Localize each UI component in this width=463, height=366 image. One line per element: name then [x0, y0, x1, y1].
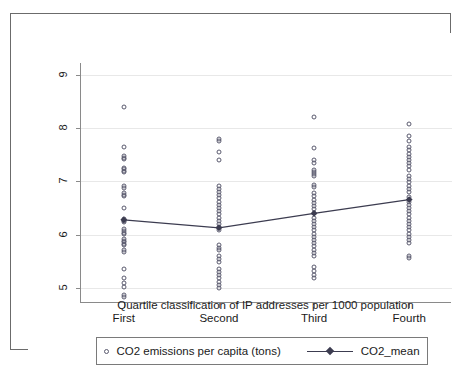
- y-axis-tick-label: 7: [58, 171, 69, 191]
- y-axis-tick-label: 8: [58, 118, 69, 138]
- figure-border: 56789 FirstSecondThirdFourth Quartile cl…: [10, 13, 451, 350]
- chart-figure: 56789 FirstSecondThirdFourth Quartile cl…: [0, 0, 463, 366]
- legend-entry-scatter: CO2 emissions per capita (tons): [104, 345, 280, 357]
- mean-line-markers: [120, 196, 412, 231]
- y-axis-tick-label: 6: [58, 224, 69, 244]
- x-axis-title: Quartile classification of IP addresses …: [80, 299, 451, 311]
- mean-marker: [311, 210, 318, 217]
- y-axis-tick-label: 5: [58, 278, 69, 298]
- open-circle-icon: [104, 349, 109, 354]
- legend-label-mean: CO2_mean: [361, 345, 420, 357]
- mean-line-series: [81, 63, 452, 303]
- mean-marker: [216, 224, 223, 231]
- x-axis-tick-label: Fourth: [393, 312, 426, 324]
- x-axis-tick-label: Third: [301, 312, 327, 324]
- chart-legend: CO2 emissions per capita (tons) CO2_mean: [96, 337, 428, 365]
- mean-line-path: [124, 200, 409, 228]
- legend-label-scatter: CO2 emissions per capita (tons): [116, 345, 280, 357]
- legend-entry-mean: CO2_mean: [307, 345, 420, 357]
- y-axis-tick-label: 9: [58, 64, 69, 84]
- line-diamond-icon: [307, 347, 353, 356]
- x-axis-tick-label: Second: [199, 312, 238, 324]
- mean-marker: [406, 196, 413, 203]
- graph-region: 56789 FirstSecondThirdFourth Quartile cl…: [28, 33, 455, 358]
- plot-area: 56789 FirstSecondThirdFourth: [80, 63, 451, 303]
- x-axis-tick-label: First: [113, 312, 135, 324]
- mean-marker: [120, 216, 127, 223]
